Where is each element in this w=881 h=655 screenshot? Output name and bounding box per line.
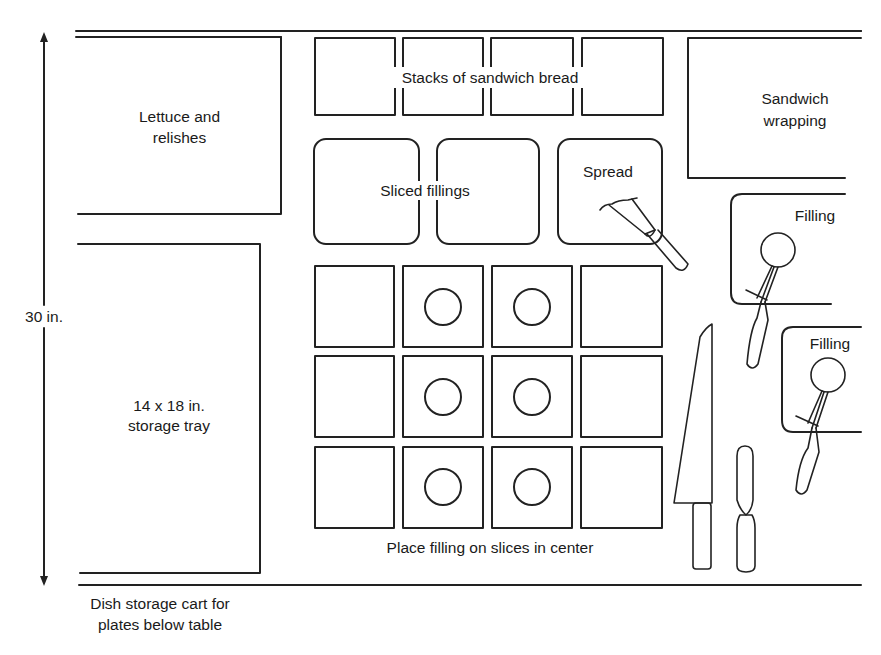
filling-dollop [425, 469, 461, 505]
spread-tray [558, 139, 662, 244]
storage-tray-label-line1: 14 x 18 in. [78, 396, 260, 415]
wrapping-label-line1: Sandwich [720, 89, 870, 108]
bread-label: Stacks of sandwich bread [370, 67, 610, 88]
cart-label-line2: plates below table [60, 615, 260, 634]
dimension-label: 30 in. [0, 307, 88, 326]
filling-1-label: Filling [775, 206, 855, 225]
filling-scoop-2-icon [796, 358, 845, 494]
arrow-up-icon [40, 32, 48, 42]
sliced-fillings-label: Sliced fillings [360, 181, 490, 200]
filling-dollop [425, 289, 461, 325]
cart-label-line1: Dish storage cart for [60, 594, 260, 613]
wrapping-label-line2: wrapping [720, 111, 870, 130]
spread-label: Spread [570, 162, 646, 181]
filling-dollop [514, 469, 550, 505]
filling-2-label: Filling [790, 334, 870, 353]
filling-scoop-1-icon [746, 233, 795, 368]
filling-dollop [425, 379, 461, 415]
spreader-brush-icon [600, 198, 688, 270]
storage-tray-label-line2: storage tray [78, 416, 260, 435]
filling-dollop [514, 379, 550, 415]
lettuce-label-line2: relishes [78, 128, 281, 147]
filling-dollop [514, 289, 550, 325]
arrow-down-icon [40, 576, 48, 586]
slice-grid-caption: Place filling on slices in center [330, 538, 650, 557]
spatula-icon [737, 446, 755, 572]
lettuce-label-line1: Lettuce and [78, 107, 281, 126]
chef-knife-icon [674, 324, 712, 569]
slice-grid [315, 266, 662, 528]
wrapping-bin [688, 38, 861, 178]
